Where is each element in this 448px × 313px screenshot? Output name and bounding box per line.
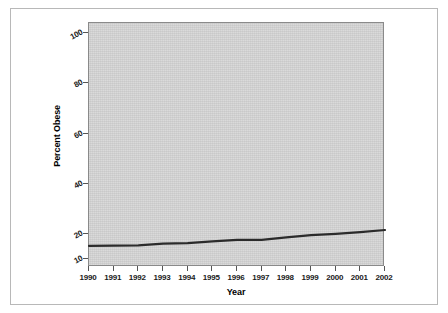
x-tick-2002	[384, 266, 385, 271]
x-tick-1995	[211, 266, 212, 271]
y-tick-100	[83, 32, 88, 33]
y-axis-title: Percent Obese	[52, 105, 62, 167]
plot-wrapper: 1020406080100 19901991199219931994199519…	[0, 0, 448, 313]
y-tick-label-40: 40	[57, 179, 84, 199]
series-line-percent-obese	[89, 230, 385, 246]
y-tick-label-10: 10	[57, 254, 84, 274]
y-tick-60	[83, 133, 88, 134]
plot-area	[88, 22, 384, 266]
x-tick-1997	[261, 266, 262, 271]
x-tick-2000	[335, 266, 336, 271]
x-tick-1992	[137, 266, 138, 271]
x-tick-1990	[88, 266, 89, 271]
y-tick-label-80: 80	[57, 78, 84, 98]
y-tick-80	[83, 82, 88, 83]
data-line-layer	[89, 23, 385, 267]
x-tick-1994	[187, 266, 188, 271]
x-tick-1998	[285, 266, 286, 271]
x-tick-1999	[310, 266, 311, 271]
x-tick-2001	[359, 266, 360, 271]
chart-figure: 1020406080100 19901991199219931994199519…	[0, 0, 448, 313]
x-tick-label-2002: 2002	[370, 273, 398, 282]
x-tick-1993	[162, 266, 163, 271]
x-tick-1996	[236, 266, 237, 271]
x-axis-title: Year	[88, 287, 384, 297]
y-tick-label-20: 20	[57, 229, 84, 249]
y-tick-10	[83, 258, 88, 259]
x-tick-1991	[113, 266, 114, 271]
y-tick-20	[83, 233, 88, 234]
y-tick-40	[83, 183, 88, 184]
y-tick-label-100: 100	[57, 28, 84, 48]
